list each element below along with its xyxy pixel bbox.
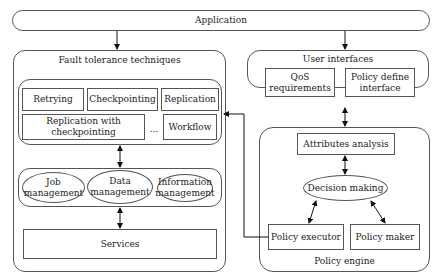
policy-engine-title: Policy engine bbox=[259, 256, 430, 266]
qos-requirements: QoS requirements bbox=[265, 68, 335, 97]
decision-making: Decision making bbox=[303, 175, 388, 201]
information-management: Information management bbox=[157, 174, 213, 202]
policy-executor: Policy executor bbox=[268, 224, 344, 250]
technique-replication: Replication bbox=[161, 88, 219, 111]
technique-replication-with-checkpointing: Replication with checkpointing bbox=[22, 114, 145, 140]
technique-checkpointing: Checkpointing bbox=[87, 88, 158, 111]
attributes-analysis: Attributes analysis bbox=[297, 133, 395, 155]
technique-ellipsis: ... bbox=[148, 124, 160, 134]
fault-tolerance-title: Fault tolerance techniques bbox=[13, 55, 226, 65]
policy-maker: Policy maker bbox=[350, 224, 420, 250]
application-label: Application bbox=[195, 15, 247, 26]
job-management: Job management bbox=[22, 172, 85, 203]
application-box: Application bbox=[12, 10, 430, 31]
policy-define-interface: Policy define interface bbox=[345, 68, 415, 97]
user-interfaces-title: User interfaces bbox=[247, 54, 429, 64]
technique-workflow: Workflow bbox=[163, 114, 217, 140]
data-management: Data management bbox=[87, 170, 153, 204]
services-box: Services bbox=[23, 229, 217, 259]
technique-retrying: Retrying bbox=[22, 88, 84, 111]
